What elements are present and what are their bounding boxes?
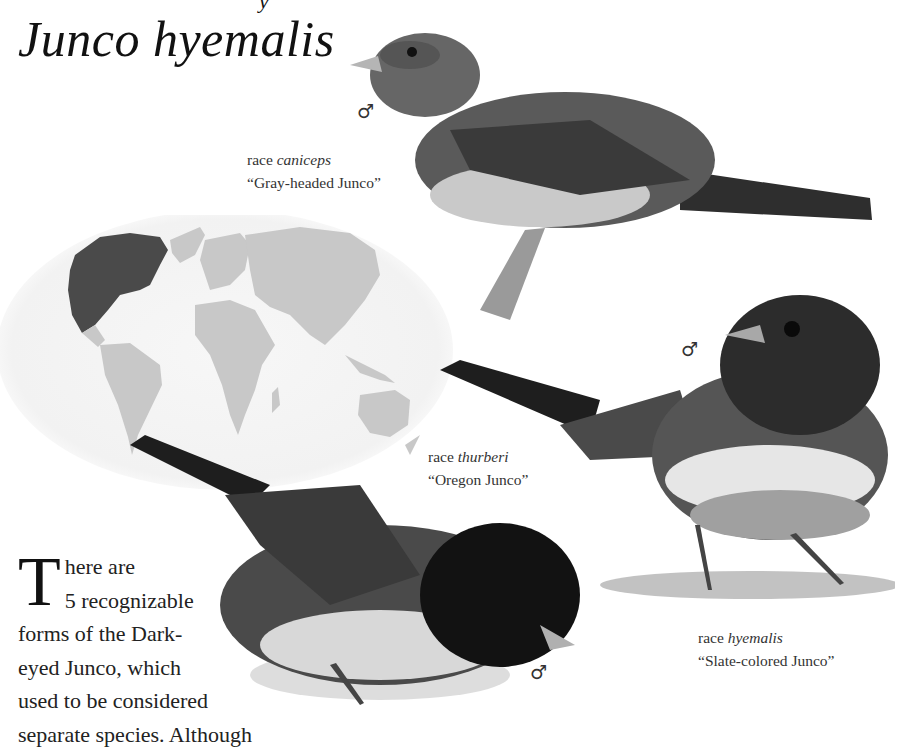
caption-common-name: “Gray-headed Junco” bbox=[247, 171, 381, 194]
page-title: Junco hyemalis bbox=[18, 14, 335, 64]
male-symbol-right: ♂ bbox=[681, 340, 698, 359]
male-symbol-bottom: ♂ bbox=[530, 663, 547, 682]
race-name: hyemalis bbox=[728, 629, 783, 646]
caption-race: race hyemalis bbox=[698, 626, 834, 649]
caption-caniceps: race caniceps “Gray-headed Junco” bbox=[247, 148, 381, 194]
caption-race: race caniceps bbox=[247, 148, 381, 171]
male-symbol-caniceps: ♂ bbox=[357, 102, 374, 121]
body-paragraph: T here are 5 recognizable forms of the D… bbox=[18, 550, 258, 751]
body-line: forms of the Dark- bbox=[18, 617, 258, 651]
body-line: used to be considered bbox=[18, 684, 258, 718]
race-name: caniceps bbox=[277, 151, 331, 168]
bird-illustration-caniceps bbox=[350, 20, 880, 330]
body-line: eyed Junco, which bbox=[18, 651, 258, 685]
caption-hyemalis: race hyemalis “Slate-colored Junco” bbox=[698, 626, 834, 672]
caption-common-name: “Slate-colored Junco” bbox=[698, 649, 834, 672]
body-line: separate species. Although bbox=[18, 718, 258, 751]
drop-cap: T bbox=[18, 554, 61, 610]
